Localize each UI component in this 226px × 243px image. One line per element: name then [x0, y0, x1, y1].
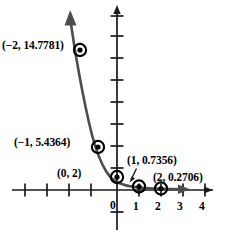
point-label-p1: (−2, 14.7781) — [2, 40, 64, 52]
point-label-p5: (2, 0.2706) — [153, 172, 203, 184]
x-tick-label-4: 4 — [199, 201, 205, 213]
y-axis-arrowhead — [113, 5, 120, 14]
y-axis — [111, 5, 124, 230]
point-label-p2: (−1, 5.4364) — [14, 137, 70, 149]
exponential-graph-figure: (−2, 14.7781) (−1, 5.4364) (0, 2) (1, 0.… — [0, 0, 226, 243]
point-label-p3: (0, 2) — [57, 168, 81, 180]
x-tick-label-3: 3 — [177, 201, 183, 213]
x-tick-label-2: 2 — [155, 201, 161, 213]
curve-arrow-up-icon — [65, 10, 77, 26]
curve-arrow-right-icon — [178, 185, 190, 195]
x-tick-label-1: 1 — [133, 201, 139, 213]
x-tick-label-0: 0 — [110, 200, 116, 212]
point-label-p4: (1, 0.7356) — [127, 155, 177, 167]
